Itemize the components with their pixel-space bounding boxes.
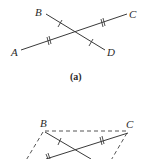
figure-b: B C (25, 117, 134, 159)
figure-caption-a: (a) (70, 71, 82, 83)
double-tick-mark-c (100, 136, 104, 145)
point-label-c: C (129, 8, 137, 20)
dashed-segment-c-left (110, 133, 127, 159)
geometry-diagram: B C A D (a) B C (0, 0, 152, 159)
point-label-a: A (10, 46, 18, 58)
segment-bd (46, 14, 105, 50)
segment-b-lower (45, 132, 91, 159)
double-tick-mark-lower (46, 153, 50, 159)
point-label-c2: C (126, 118, 134, 130)
figure-a: B C A D (a) (10, 6, 137, 83)
point-label-d: D (106, 46, 115, 58)
point-label-b2: B (40, 117, 47, 129)
dashed-segment-b-left (25, 132, 43, 159)
segment-ac (21, 14, 127, 50)
segment-lower-c (46, 133, 128, 159)
point-label-b: B (35, 6, 42, 18)
